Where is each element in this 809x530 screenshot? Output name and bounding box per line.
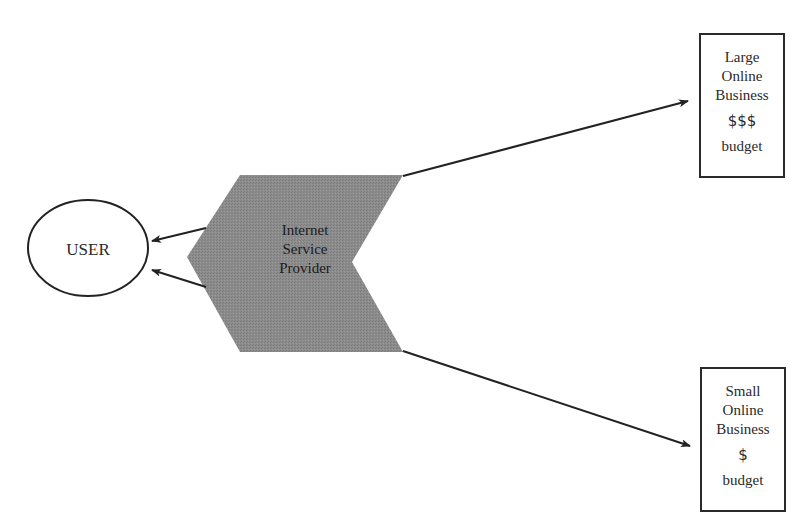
arrow-isp-to-large-business bbox=[403, 101, 688, 176]
large-business-line-2: Online bbox=[701, 67, 783, 86]
user-label: USER bbox=[28, 240, 148, 260]
isp-label: Internet Service Provider bbox=[250, 221, 360, 278]
large-business-budget-label: budget bbox=[701, 137, 783, 156]
isp-label-line-1: Internet bbox=[250, 221, 360, 240]
large-business-line-3: Business bbox=[701, 86, 783, 105]
arrow-isp-to-user-upper bbox=[152, 228, 206, 241]
small-business-budget-label: budget bbox=[702, 471, 784, 490]
small-business-line-2: Online bbox=[702, 401, 784, 420]
large-business-budget-symbol: $$$ bbox=[701, 111, 783, 131]
small-business-line-3: Business bbox=[702, 420, 784, 439]
isp-label-line-3: Provider bbox=[250, 259, 360, 278]
arrow-isp-to-small-business bbox=[403, 351, 690, 446]
small-business-budget-symbol: $ bbox=[702, 445, 784, 465]
small-business-node: Small Online Business $ budget bbox=[700, 367, 786, 512]
large-business-line-1: Large bbox=[701, 48, 783, 67]
diagram-canvas bbox=[0, 0, 809, 530]
large-business-node: Large Online Business $$$ budget bbox=[699, 33, 785, 178]
isp-label-line-2: Service bbox=[250, 240, 360, 259]
small-business-line-1: Small bbox=[702, 382, 784, 401]
